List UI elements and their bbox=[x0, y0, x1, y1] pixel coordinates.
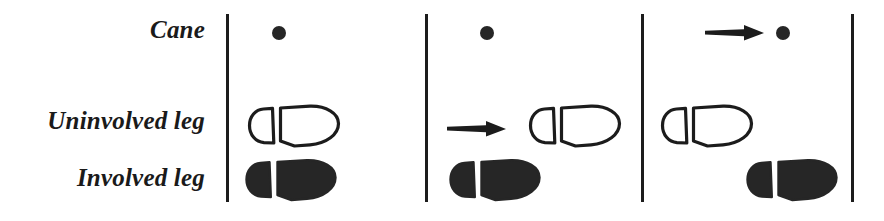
footprint-filled-involved-panel-1 bbox=[243, 157, 339, 203]
footprint-filled-involved-panel-3 bbox=[744, 157, 840, 203]
footprint-outline-uninvolved-panel-3 bbox=[659, 103, 755, 149]
gait-sequence-figure: Cane Uninvolved leg Involved leg bbox=[0, 0, 884, 221]
cane-dot-icon-panel-2 bbox=[480, 26, 494, 40]
divider-line-4 bbox=[851, 14, 854, 202]
divider-line-1 bbox=[226, 14, 229, 202]
cane-dot-icon-panel-3 bbox=[776, 26, 790, 40]
row-label-cane: Cane bbox=[150, 16, 205, 44]
advance-arrow-icon-uninvolved-panel-2 bbox=[446, 117, 508, 141]
footprint-outline-uninvolved-panel-2 bbox=[527, 103, 623, 149]
footprint-outline-uninvolved-panel-1 bbox=[246, 103, 342, 149]
cane-dot-icon-panel-1 bbox=[272, 26, 286, 40]
row-label-involved-leg: Involved leg bbox=[77, 164, 205, 192]
row-label-uninvolved-leg: Uninvolved leg bbox=[47, 107, 205, 135]
divider-line-2 bbox=[425, 14, 428, 202]
footprint-filled-involved-panel-2 bbox=[447, 157, 543, 203]
advance-arrow-icon-cane-panel-3 bbox=[704, 21, 766, 45]
divider-line-3 bbox=[641, 14, 644, 202]
